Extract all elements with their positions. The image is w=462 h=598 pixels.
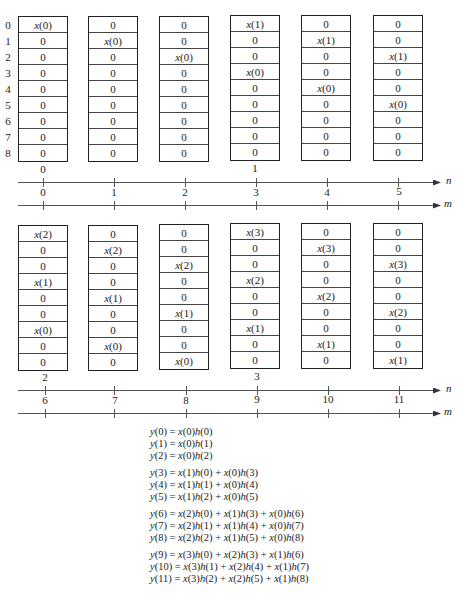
- equation: y(9) = x(3)h(0) + x(2)h(3) + x(1)h(6): [150, 549, 309, 561]
- equation: y(3) = x(1)h(0) + x(0)h(3): [150, 467, 258, 479]
- equation-group-3: y(9) = x(3)h(0) + x(2)h(3) + x(1)h(6) y(…: [150, 549, 309, 585]
- equation-group-2: y(6) = x(2)h(0) + x(1)h(3) + x(0)h(6) y(…: [150, 508, 304, 544]
- m-axis-top: [18, 201, 440, 210]
- m-axis-bottom: [18, 409, 440, 418]
- equation: y(10) = x(3)h(1) + x(2)h(4) + x(1)h(7): [150, 561, 309, 573]
- equation: y(1) = x(0)h(1): [150, 438, 213, 450]
- n-axis-top: [18, 178, 440, 187]
- n-axis-bottom: [18, 386, 440, 395]
- equation: y(8) = x(2)h(2) + x(1)h(5) + x(0)h(8): [150, 532, 304, 544]
- equation: y(0) = x(0)h(0): [150, 426, 213, 438]
- equation: y(2) = x(0)h(2): [150, 450, 213, 462]
- equation: y(4) = x(1)h(1) + x(0)h(4): [150, 479, 258, 491]
- equation: y(6) = x(2)h(0) + x(1)h(3) + x(0)h(6): [150, 508, 304, 520]
- equation: y(5) = x(1)h(2) + x(0)h(5): [150, 491, 258, 503]
- equation: y(11) = x(3)h(2) + x(2)h(5) + x(1)h(8): [150, 573, 309, 585]
- equation: y(7) = x(2)h(1) + x(1)h(4) + x(0)h(7): [150, 520, 304, 532]
- equation-group-1: y(3) = x(1)h(0) + x(0)h(3) y(4) = x(1)h(…: [150, 467, 258, 503]
- equation-group-0: y(0) = x(0)h(0) y(1) = x(0)h(1) y(2) = x…: [150, 426, 213, 462]
